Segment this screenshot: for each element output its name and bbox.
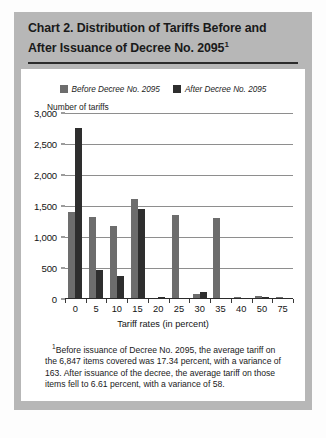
x-tick-label: 30 <box>195 304 205 314</box>
x-tick-mark <box>272 299 273 303</box>
x-tick-mark <box>65 299 66 303</box>
y-axis-labels: 05001,0001,5002,0002,5003,000 <box>21 113 61 299</box>
legend-item-after: After Decree No. 2095 <box>173 85 266 94</box>
bar-after <box>117 276 124 299</box>
title-band: Chart 2. Distribution of Tariffs Before … <box>14 12 312 66</box>
page-title: Chart 2. Distribution of Tariffs Before … <box>28 21 298 56</box>
x-axis-title: Tariff rates (in percent) <box>21 319 305 329</box>
bar-before <box>172 215 179 299</box>
bar-before <box>89 217 96 299</box>
x-tick-mark <box>86 299 87 303</box>
y-tick-label: 3,000 <box>34 108 57 119</box>
x-tick-mark <box>127 299 128 303</box>
legend-label-after: After Decree No. 2095 <box>185 85 266 94</box>
x-tick-label: 15 <box>132 304 142 314</box>
x-tick-mark <box>169 299 170 303</box>
bar-group <box>255 113 269 299</box>
bar-group <box>276 113 290 299</box>
title-line-2: After Issuance of Decree No. 2095 <box>28 41 224 55</box>
y-tick-label: 500 <box>42 263 57 274</box>
x-tick-mark <box>293 299 294 303</box>
plot-wrapper: 05001,0001,5002,0002,5003,000 0510152025… <box>21 113 305 313</box>
chart-panel: Before Decree No. 2095 After Decree No. … <box>21 69 305 401</box>
x-tick-label: 5 <box>93 304 98 314</box>
x-tick-mark <box>231 299 232 303</box>
y-tick-label: 2,500 <box>34 139 57 150</box>
x-tick-label: 10 <box>112 304 122 314</box>
bar-after <box>75 128 82 299</box>
x-tick-label: 0 <box>73 304 78 314</box>
x-tick-label: 75 <box>277 304 287 314</box>
bar-before <box>131 199 138 299</box>
bar-group <box>110 113 124 299</box>
bar-after <box>138 209 145 299</box>
x-tick-mark <box>210 299 211 303</box>
bar-group <box>131 113 145 299</box>
chart-frame: Chart 2. Distribution of Tariffs Before … <box>14 12 312 410</box>
bar-series <box>65 113 293 299</box>
footnote-text: Before issuance of Decree No. 2095, the … <box>45 345 281 389</box>
y-tick-label: 1,000 <box>34 232 57 243</box>
after-swatch-icon <box>173 85 181 93</box>
x-tick-label: 25 <box>174 304 184 314</box>
bar-group <box>89 113 103 299</box>
bar-before <box>213 218 220 299</box>
x-tick-mark <box>148 299 149 303</box>
x-tick-mark <box>106 299 107 303</box>
bar-group <box>172 113 186 299</box>
y-tick-label: 0 <box>52 294 57 305</box>
x-tick-label: 50 <box>257 304 267 314</box>
bar-group <box>234 113 248 299</box>
bar-group <box>151 113 165 299</box>
x-tick-mark <box>189 299 190 303</box>
y-tick-label: 2,000 <box>34 170 57 181</box>
x-tick-mark <box>252 299 253 303</box>
chart-footnote: 1Before issuance of Decree No. 2095, the… <box>45 341 283 390</box>
bar-group <box>213 113 227 299</box>
legend-label-before: Before Decree No. 2095 <box>72 85 160 94</box>
y-tick-label: 1,500 <box>34 201 57 212</box>
bar-after <box>96 270 103 299</box>
title-line-1: Chart 2. Distribution of Tariffs Before … <box>28 21 266 35</box>
title-divider <box>28 62 298 64</box>
plot-area <box>65 113 293 299</box>
bar-group <box>193 113 207 299</box>
chart-page: Chart 2. Distribution of Tariffs Before … <box>0 0 326 438</box>
x-tick-label: 35 <box>215 304 225 314</box>
bar-before <box>68 212 75 299</box>
bar-group <box>68 113 82 299</box>
x-tick-label: 40 <box>236 304 246 314</box>
legend-item-before: Before Decree No. 2095 <box>60 85 160 94</box>
title-footnote-marker: 1 <box>224 40 228 49</box>
x-tick-label: 20 <box>153 304 163 314</box>
bar-before <box>110 226 117 299</box>
x-axis-labels: 05101520253035405075 <box>65 304 293 318</box>
before-swatch-icon <box>60 85 68 93</box>
chart-legend: Before Decree No. 2095 After Decree No. … <box>21 82 305 96</box>
